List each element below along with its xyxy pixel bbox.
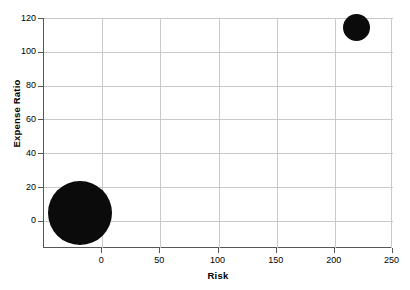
data-point-large-bubble[interactable] [48, 181, 112, 245]
tick-mark-y-40 [38, 153, 43, 154]
scatter-chart: 120 100 80 60 40 20 0 0 50 100 150 200 2… [0, 0, 410, 290]
tick-mark-y-80 [38, 86, 43, 87]
tick-label-x-100: 100 [198, 256, 238, 265]
tick-label-y-0: 0 [2, 216, 36, 225]
tick-mark-y-0 [38, 221, 43, 222]
plot-area [43, 18, 392, 248]
gridline-x-150 [277, 18, 278, 248]
tick-label-x-0: 0 [81, 256, 121, 265]
tick-label-x-50: 50 [139, 256, 179, 265]
tick-label-x-150: 150 [256, 256, 296, 265]
tick-label-y-0-wrap: 0 [0, 216, 36, 225]
tick-label-y-20: 20 [2, 183, 36, 192]
tick-mark-y-120 [38, 18, 43, 19]
tick-label-y-120-wrap: 120 [0, 14, 36, 23]
data-point-small-bubble[interactable] [343, 14, 370, 41]
y-axis-title: Expense Ratio [11, 54, 22, 174]
tick-mark-y-100 [38, 52, 43, 53]
gridline-x-50 [160, 18, 161, 248]
tick-label-x-200: 200 [314, 256, 354, 265]
gridline-x-200 [335, 18, 336, 248]
tick-mark-x-100 [218, 248, 219, 253]
tick-mark-x-250 [392, 248, 393, 253]
tick-label-x-250: 250 [372, 256, 410, 265]
tick-label-y-20-wrap: 20 [0, 183, 36, 192]
gridline-x-100 [219, 18, 220, 248]
x-axis-title: Risk [198, 270, 238, 281]
tick-mark-y-20 [38, 187, 43, 188]
tick-mark-x-0 [101, 248, 102, 253]
tick-label-y-120: 120 [2, 14, 36, 23]
tick-mark-x-50 [159, 248, 160, 253]
tick-mark-x-150 [276, 248, 277, 253]
tick-mark-x-200 [334, 248, 335, 253]
tick-mark-y-60 [38, 119, 43, 120]
